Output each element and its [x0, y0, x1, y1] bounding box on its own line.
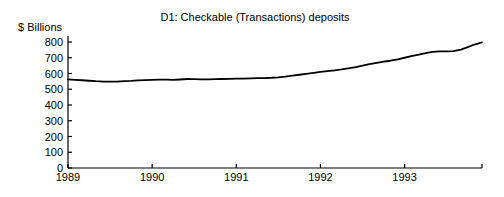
- y-axis-unit-label: $ Billions: [18, 21, 63, 33]
- y-axis-tick-label: 100: [45, 146, 63, 158]
- y-axis-tick-label: 800: [45, 36, 63, 48]
- x-axis-tick-label: 1991: [224, 171, 248, 183]
- x-axis-tick-label: 1992: [308, 171, 332, 183]
- y-axis-tick-label: 400: [45, 99, 63, 111]
- y-axis-tick-label: 300: [45, 115, 63, 127]
- chart-title: D1: Checkable (Transactions) deposits: [160, 11, 350, 23]
- data-series-group: [68, 42, 482, 81]
- y-axis-tick-label: 600: [45, 68, 63, 80]
- x-axis-tick-label: 1990: [140, 171, 164, 183]
- data-line-path: [68, 42, 482, 81]
- y-axis-tick-label: 700: [45, 52, 63, 64]
- x-axis-tick-label: 1993: [392, 171, 416, 183]
- y-axis-tick-label: 500: [45, 83, 63, 95]
- y-axis-tick-label: 200: [45, 131, 63, 143]
- line-chart: 0100200300400500600700800 19891990199119…: [0, 0, 504, 197]
- chart-container: 0100200300400500600700800 19891990199119…: [0, 0, 504, 197]
- chart-axes: [68, 36, 482, 168]
- x-axis-ticks: 19891990199119921993: [56, 164, 482, 183]
- x-axis-tick-label: 1989: [56, 171, 80, 183]
